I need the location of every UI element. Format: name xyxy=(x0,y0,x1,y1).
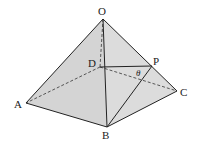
label-P: P xyxy=(153,55,159,67)
pyramid-diagram: O D P C A B θ xyxy=(0,0,204,143)
label-B: B xyxy=(102,129,109,141)
label-C: C xyxy=(180,86,187,98)
label-theta: θ xyxy=(136,68,141,78)
pyramid-svg: O D P C A B θ xyxy=(0,0,204,143)
label-O: O xyxy=(98,5,106,17)
label-A: A xyxy=(14,98,22,110)
face-OAB xyxy=(26,19,107,127)
label-D: D xyxy=(88,57,96,69)
